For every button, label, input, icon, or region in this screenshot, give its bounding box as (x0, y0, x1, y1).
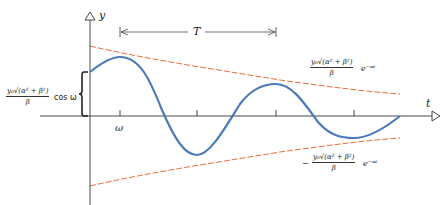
lower-envelope-numerator: y₀√(α² + β²) (312, 153, 355, 163)
initial-value-fraction: y₀√(α² + β²) β (6, 87, 49, 106)
initial-value-brace (79, 72, 88, 116)
upper-envelope-numerator: y₀√(α² + β²) (310, 58, 353, 68)
upper-envelope-curve (90, 46, 400, 94)
initial-value-numerator: y₀√(α² + β²) (6, 87, 49, 97)
lower-envelope-fraction: y₀√(α² + β²) β (312, 153, 355, 172)
upper-envelope-suffix: e⁻ᵅᵗ (361, 64, 375, 73)
y-axis-label: y (99, 10, 105, 21)
upper-envelope-fraction: y₀√(α² + β²) β (310, 58, 353, 77)
lower-envelope-denominator: β (332, 163, 336, 172)
t-axis-label: t (426, 98, 430, 109)
lower-envelope-suffix: e⁻ᵅᵗ (363, 159, 377, 168)
initial-value-denominator: β (26, 97, 30, 106)
damped-oscillation-diagram (0, 0, 443, 205)
upper-envelope-denominator: β (330, 68, 334, 77)
y-axis-arrow-icon (85, 12, 95, 20)
period-label: T (193, 26, 200, 37)
lower-envelope-prefix: − (302, 159, 309, 168)
initial-value-suffix: cos ω (54, 93, 77, 102)
t-axis-arrow-icon (432, 111, 440, 121)
damped-wave-curve (90, 57, 400, 155)
omega-tick-label: ω (115, 123, 123, 133)
